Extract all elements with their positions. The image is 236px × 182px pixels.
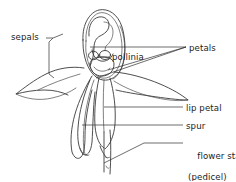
label-sepals: sepals	[11, 32, 39, 43]
column-left-arm	[89, 17, 109, 66]
left-sepal	[16, 67, 84, 95]
lip-petal-left-edge	[95, 78, 104, 148]
pollinium-stalk-right	[105, 47, 106, 51]
orchid-flower-diagram: sepals pollinia petals lip petal spur fl…	[0, 0, 236, 181]
leader-flower-stalk	[104, 143, 183, 163]
label-flower-stalk-line1: flower stalk	[197, 151, 236, 161]
label-pollinia: pollinia	[112, 52, 144, 63]
leader-sepals-upper-tick	[53, 34, 63, 38]
left-sepal-vein	[38, 74, 80, 90]
lip-petal-midrib	[103, 80, 104, 132]
stigma-cup-fold	[94, 67, 110, 71]
left-sepal-group	[16, 67, 84, 99]
right-sepal-lower-edge	[114, 81, 188, 101]
pedicel-node	[105, 157, 110, 158]
pedicel-right	[110, 130, 111, 174]
lower-left-petal-group	[71, 76, 94, 158]
lower-left-petal	[71, 76, 92, 158]
label-pedicel-line2: (pedicel)	[186, 172, 236, 182]
lip-petal-group	[95, 78, 116, 158]
dorsal-hood-outer	[83, 10, 125, 81]
right-sepal-group	[114, 72, 188, 101]
pedicel-base-mark	[106, 166, 109, 168]
flower-stalk-group	[104, 130, 111, 174]
column-right-arm	[104, 22, 113, 46]
label-lip-petal: lip petal	[186, 103, 222, 114]
dorsal-hood-group	[83, 10, 125, 81]
label-spur: spur	[186, 121, 205, 132]
label-flower-stalk: flower stalk (pedicel)	[186, 140, 236, 181]
right-sepal	[114, 72, 188, 100]
label-petals: petals	[189, 43, 216, 54]
